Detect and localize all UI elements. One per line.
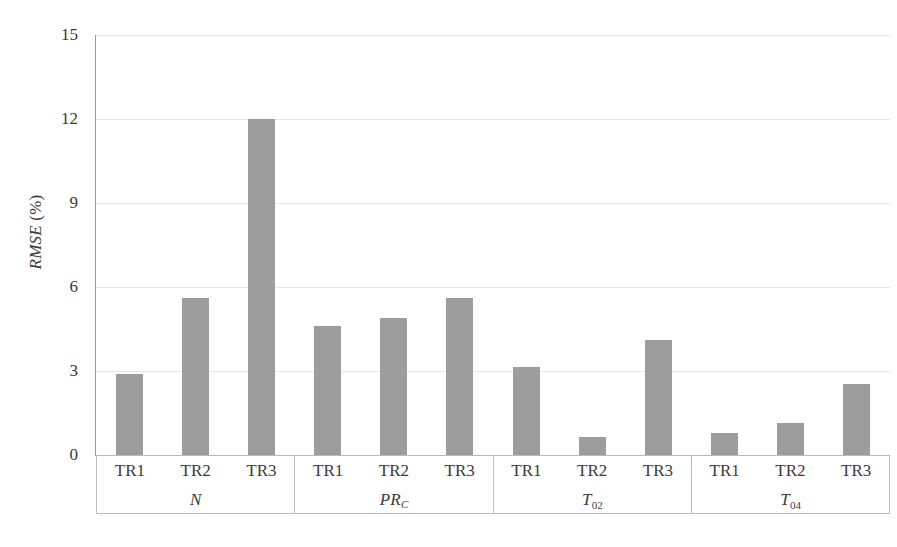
category-tick-label: TR1 <box>692 461 758 481</box>
group-name-subscript: C <box>401 498 408 510</box>
gridline <box>96 287 890 288</box>
y-tick-label: 0 <box>44 446 78 463</box>
group-name-subscript: 04 <box>790 490 801 510</box>
gridline <box>96 203 890 204</box>
bar <box>380 318 407 455</box>
group-name-label: PRC <box>295 486 492 513</box>
y-tick-label: 9 <box>44 194 78 211</box>
group-name-label: T04 <box>692 486 889 513</box>
bar <box>116 374 143 455</box>
bar <box>182 298 209 455</box>
gridline <box>96 119 890 120</box>
bar <box>777 423 804 455</box>
bar <box>579 437 606 455</box>
category-tick-label: TR3 <box>427 461 493 481</box>
category-axis: TR1TR2TR3NTR1TR2TR3PRCTR1TR2TR3T02TR1TR2… <box>96 456 890 514</box>
group-name-subscript-text: 02 <box>592 499 603 511</box>
group-name-label: N <box>97 486 294 513</box>
bar <box>711 433 738 455</box>
group-name-base: T <box>780 490 789 510</box>
category-tick-label: TR2 <box>559 461 625 481</box>
gridline <box>96 371 890 372</box>
category-group: TR1TR2TR3N <box>97 456 295 513</box>
category-group: TR1TR2TR3T02 <box>494 456 692 513</box>
category-tick-row: TR1TR2TR3 <box>97 456 294 486</box>
group-name-subscript-text: 04 <box>790 499 801 511</box>
category-tick-label: TR3 <box>625 461 691 481</box>
y-tick-label: 15 <box>44 26 78 43</box>
y-tick-label: 6 <box>44 278 78 295</box>
y-axis-tick-labels: 15129630 <box>40 0 78 547</box>
bar <box>248 119 275 455</box>
category-tick-label: TR2 <box>163 461 229 481</box>
bar <box>843 384 870 455</box>
group-name-label: T02 <box>494 486 691 513</box>
bar <box>446 298 473 455</box>
category-tick-label: TR3 <box>229 461 295 481</box>
category-group: TR1TR2TR3T04 <box>692 456 889 513</box>
group-name-base: T <box>582 490 591 510</box>
y-tick-label: 12 <box>44 110 78 127</box>
group-name-base: PR <box>380 490 401 510</box>
category-tick-label: TR1 <box>295 461 361 481</box>
bar <box>513 367 540 455</box>
bar <box>645 340 672 455</box>
category-tick-label: TR2 <box>758 461 824 481</box>
gridline <box>96 35 890 36</box>
category-tick-label: TR2 <box>361 461 427 481</box>
category-tick-label: TR1 <box>494 461 560 481</box>
bar-chart: RMSE (%) 15129630 TR1TR2TR3NTR1TR2TR3PRC… <box>0 0 897 547</box>
y-tick-label: 3 <box>44 362 78 379</box>
category-tick-label: TR3 <box>823 461 889 481</box>
category-tick-label: TR1 <box>97 461 163 481</box>
bar <box>314 326 341 455</box>
group-name-base: N <box>190 490 201 510</box>
category-tick-row: TR1TR2TR3 <box>494 456 691 486</box>
category-group: TR1TR2TR3PRC <box>295 456 493 513</box>
category-tick-row: TR1TR2TR3 <box>692 456 889 486</box>
category-tick-row: TR1TR2TR3 <box>295 456 492 486</box>
plot-area <box>96 35 890 455</box>
group-name-subscript: 02 <box>591 490 602 510</box>
